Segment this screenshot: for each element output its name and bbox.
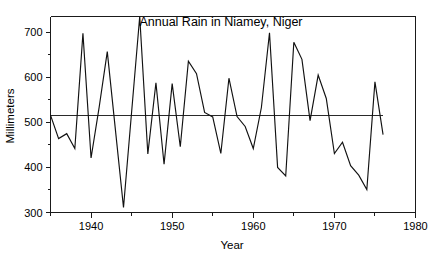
x-tick-label: 1980 bbox=[403, 220, 427, 232]
y-tick-label: 300 bbox=[24, 207, 42, 219]
y-tick-label: 600 bbox=[24, 71, 42, 83]
y-tick-label: 700 bbox=[24, 26, 42, 38]
line-chart: 300400500600700 19401950196019701980 Ann… bbox=[0, 0, 442, 257]
chart-title: Annual Rain in Niamey, Niger bbox=[139, 15, 302, 29]
x-tick-label: 1940 bbox=[79, 220, 103, 232]
chart-screenshot: 300400500600700 19401950196019701980 Ann… bbox=[0, 0, 442, 257]
x-axis-title: Year bbox=[220, 239, 243, 251]
chart-background bbox=[0, 0, 442, 257]
x-tick-label: 1960 bbox=[241, 220, 265, 232]
x-tick-label: 1950 bbox=[160, 220, 184, 232]
y-axis-title: Millimeters bbox=[4, 88, 16, 143]
y-tick-label: 500 bbox=[24, 116, 42, 128]
y-tick-label: 400 bbox=[24, 161, 42, 173]
x-tick-label: 1970 bbox=[322, 220, 346, 232]
